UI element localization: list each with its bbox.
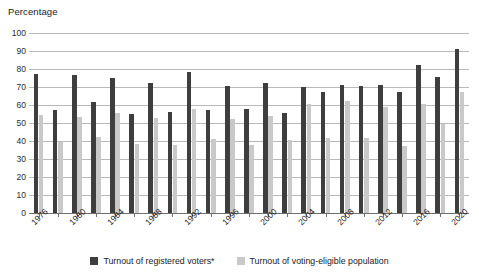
y-axis-title: Percentage [8,6,58,17]
x-tick [402,213,403,217]
x-tick [172,213,173,217]
y-tick-label-0: 0 [2,209,26,218]
bar [397,92,402,213]
bar [168,112,173,213]
y-tick-label-40: 40 [2,137,26,146]
bar [435,77,440,213]
bar [110,78,115,213]
bar [359,86,364,213]
bar-group [354,33,373,213]
bar [115,113,120,213]
bar-group [239,33,258,213]
bar [421,104,426,213]
bar [135,144,140,213]
y-tick-label-90: 90 [2,47,26,56]
bar [148,83,153,214]
bar-group [182,33,201,213]
bar [263,83,268,214]
x-tick [440,213,441,217]
bar-series-container [29,33,469,213]
chart-legend: Turnout of registered voters*Turnout of … [0,256,479,266]
bar-group [259,33,278,213]
x-tick [287,213,288,217]
bar [321,92,326,213]
y-tick-label-10: 10 [2,191,26,200]
bar-group [106,33,125,213]
bar [173,145,178,213]
bar-group [29,33,48,213]
bar [364,138,369,213]
bar [383,107,388,213]
x-tick [364,213,365,217]
legend-item: Turnout of voting-eligible population [237,256,389,266]
bar [441,124,446,213]
bar [96,137,101,213]
x-tick [96,213,97,217]
bar-group [48,33,67,213]
x-tick [326,213,327,217]
bar [187,72,192,213]
bar-group [125,33,144,213]
bar [460,92,465,213]
bar [288,140,293,213]
bar-group [373,33,392,213]
bar [34,74,39,214]
bar-group [316,33,335,213]
bar [326,138,331,213]
y-tick-label-100: 100 [2,29,26,38]
bar-group [144,33,163,213]
bar-group [201,33,220,213]
y-tick-label-20: 20 [2,173,26,182]
bar [268,116,273,213]
plot-area [29,33,469,213]
bar [340,85,345,213]
y-tick-label-70: 70 [2,83,26,92]
legend-swatch-icon [237,257,245,265]
bar [206,110,211,214]
bar [129,114,134,213]
bar-group [163,33,182,213]
bar [77,117,82,213]
bar [244,109,249,213]
y-tick-label-30: 30 [2,155,26,164]
bar [402,146,407,213]
bar [225,86,230,213]
y-tick-label-50: 50 [2,119,26,128]
legend-swatch-icon [90,257,98,265]
x-tick [58,213,59,217]
bar [91,102,96,213]
bar-group [431,33,450,213]
bar [58,142,63,213]
bar [345,101,350,213]
bar [211,139,216,213]
legend-label: Turnout of registered voters* [103,256,214,266]
y-tick-label-80: 80 [2,65,26,74]
bar-group [392,33,411,213]
x-tick [211,213,212,217]
bar [39,115,44,213]
y-axis: 0102030405060708090100 [0,33,26,213]
bar-group [220,33,239,213]
legend-item: Turnout of registered voters* [90,256,214,266]
turnout-bar-chart: Percentage 0102030405060708090100 197619… [0,0,479,279]
x-tick [134,213,135,217]
bar [282,113,287,213]
bar-group [450,33,469,213]
bar [416,65,421,214]
bar-group [412,33,431,213]
bar [53,110,58,213]
bar-group [335,33,354,213]
bar [378,85,383,213]
bar [455,49,460,213]
legend-label: Turnout of voting-eligible population [250,256,389,266]
bar [307,104,312,213]
bar [230,119,235,213]
bar [154,118,159,213]
bar [192,109,197,213]
bar [249,145,254,213]
bar-group [278,33,297,213]
y-tick-label-60: 60 [2,101,26,110]
x-tick [249,213,250,217]
bar-group [86,33,105,213]
bar [72,75,77,213]
